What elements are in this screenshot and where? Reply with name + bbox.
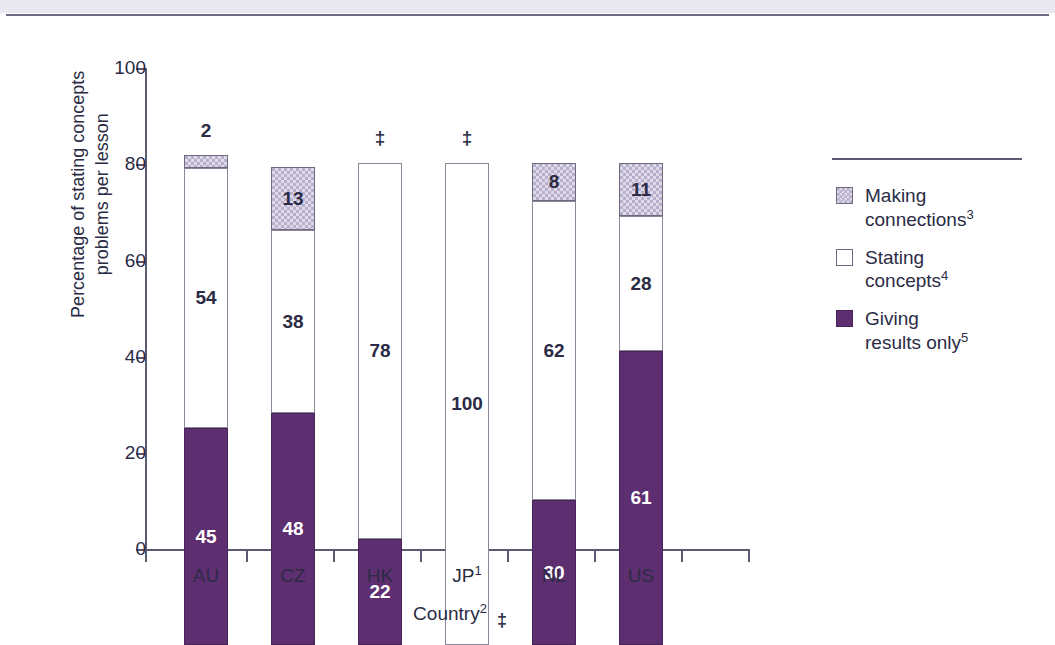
bar-segment-AU-stating[interactable]: 54 bbox=[184, 168, 228, 428]
bar-value-AU-stating: 54 bbox=[195, 287, 216, 309]
x-axis-label-HK: HK bbox=[335, 565, 425, 587]
bar-segment-AU-giving[interactable]: 45 bbox=[184, 428, 228, 645]
x-tick-mark-6 bbox=[681, 551, 683, 562]
bar-group-HK[interactable]: ‡ 22 78 bbox=[358, 95, 402, 645]
x-tick-mark-3 bbox=[420, 551, 422, 562]
figure-root: 100 80 60 40 20 0 Percentage of stating … bbox=[0, 0, 1055, 645]
x-axis-label-NL: NL bbox=[509, 565, 599, 587]
x-axis-label-CZ: CZ bbox=[248, 565, 338, 587]
bar-value-NL-stating: 62 bbox=[543, 340, 564, 362]
bar-segment-HK-stating[interactable]: 78 bbox=[358, 163, 402, 539]
bar-segment-US-stating[interactable]: 28 bbox=[619, 216, 663, 351]
bar-value-CZ-stating: 38 bbox=[282, 311, 303, 333]
bar-value-NL-making: 8 bbox=[549, 171, 560, 193]
legend-label-making-connections-line2: connections bbox=[865, 209, 966, 230]
legend-label-giving-results-only-line1: Giving bbox=[865, 308, 919, 329]
bar-top-note-HK: ‡ bbox=[358, 127, 402, 149]
x-axis-label-AU-text: AU bbox=[193, 565, 219, 586]
bar-group-CZ[interactable]: 48 38 13 bbox=[271, 95, 315, 645]
bar-value-US-giving: 61 bbox=[630, 487, 651, 509]
x-axis-label-US-text: US bbox=[628, 565, 654, 586]
legend-label-giving-results-only-sup: 5 bbox=[961, 329, 968, 344]
y-axis-line bbox=[145, 68, 147, 550]
bar-group-JP[interactable]: ‡ 100 ‡ bbox=[445, 95, 489, 645]
x-axis-label-AU: AU bbox=[161, 565, 251, 587]
x-axis-title: Country2 bbox=[340, 603, 560, 625]
legend-item-stating-concepts[interactable]: Statingconcepts4 bbox=[836, 246, 1036, 294]
bar-top-note-AU: 2 bbox=[184, 120, 228, 142]
x-axis-label-NL-text: NL bbox=[542, 565, 566, 586]
plot-area: 100 80 60 40 20 0 Percentage of stating … bbox=[0, 0, 800, 645]
x-tick-mark-0 bbox=[145, 551, 147, 562]
bar-segment-CZ-making[interactable]: 13 bbox=[271, 167, 315, 230]
x-tick-mark-5 bbox=[594, 551, 596, 562]
legend-label-stating-concepts: Statingconcepts4 bbox=[865, 246, 948, 294]
legend-swatch-stating-concepts-icon bbox=[836, 249, 853, 266]
legend-swatch-making-connections-icon bbox=[836, 187, 853, 204]
bar-value-JP-stating: 100 bbox=[451, 393, 483, 415]
x-axis-label-US: US bbox=[596, 565, 686, 587]
bar-group-AU[interactable]: 2 45 54 bbox=[184, 95, 228, 645]
x-tick-mark-4 bbox=[507, 551, 509, 562]
legend-item-giving-results-only[interactable]: Givingresults only5 bbox=[836, 307, 1036, 355]
x-axis-label-JP-text: JP bbox=[452, 565, 474, 586]
bar-value-AU-giving: 45 bbox=[195, 526, 216, 548]
x-axis-title-text: Country bbox=[413, 603, 480, 624]
bar-segment-CZ-giving[interactable]: 48 bbox=[271, 413, 315, 645]
x-axis-label-JP: JP1 bbox=[422, 565, 512, 587]
bar-segment-US-making[interactable]: 11 bbox=[619, 163, 663, 216]
bar-value-US-making: 11 bbox=[631, 179, 651, 201]
bar-segment-AU-making[interactable] bbox=[184, 155, 228, 168]
legend-label-giving-results-only: Givingresults only5 bbox=[865, 307, 968, 355]
x-tick-mark-2 bbox=[333, 551, 335, 562]
bar-segment-HK-giving[interactable]: 22 bbox=[358, 539, 402, 645]
legend-label-stating-concepts-line1: Stating bbox=[865, 247, 924, 268]
y-tick-label-20: 20 bbox=[106, 442, 146, 464]
bar-segment-CZ-stating[interactable]: 38 bbox=[271, 230, 315, 413]
bar-segment-NL-stating[interactable]: 62 bbox=[532, 201, 576, 500]
x-axis-label-CZ-text: CZ bbox=[280, 565, 305, 586]
legend-swatch-giving-results-only-icon bbox=[836, 310, 853, 327]
bar-segment-NL-making[interactable]: 8 bbox=[532, 163, 576, 201]
legend-label-making-connections-sup: 3 bbox=[966, 206, 973, 221]
legend-label-making-connections-line1: Making bbox=[865, 185, 926, 206]
bar-value-CZ-making: 13 bbox=[282, 188, 303, 210]
legend-divider-rule bbox=[832, 158, 1022, 160]
legend-label-giving-results-only-line2: results only bbox=[865, 332, 961, 353]
y-axis-title: Percentage of stating concepts problems … bbox=[66, 44, 115, 344]
legend-label-stating-concepts-line2: concepts bbox=[865, 270, 941, 291]
x-axis-title-sup: 2 bbox=[480, 601, 487, 616]
y-tick-label-0: 0 bbox=[106, 538, 146, 560]
bar-value-HK-stating: 78 bbox=[369, 340, 390, 362]
legend-items: Makingconnections3 Statingconcepts4 Givi… bbox=[836, 184, 1036, 369]
bar-value-US-stating: 28 bbox=[630, 273, 651, 295]
bar-segment-US-giving[interactable]: 61 bbox=[619, 351, 663, 645]
bar-value-CZ-giving: 48 bbox=[282, 518, 303, 540]
legend-item-making-connections[interactable]: Makingconnections3 bbox=[836, 184, 1036, 232]
legend-label-stating-concepts-sup: 4 bbox=[941, 268, 948, 283]
x-axis-label-HK-text: HK bbox=[367, 565, 393, 586]
bar-group-US[interactable]: 61 28 11 bbox=[619, 95, 663, 645]
x-tick-mark-7 bbox=[748, 551, 750, 562]
bar-top-note-JP: ‡ bbox=[445, 127, 489, 149]
legend-label-making-connections: Makingconnections3 bbox=[865, 184, 974, 232]
x-tick-mark-1 bbox=[246, 551, 248, 562]
y-tick-label-40: 40 bbox=[106, 346, 146, 368]
x-axis-label-JP-sup: 1 bbox=[474, 563, 481, 578]
bar-group-NL[interactable]: 30 62 8 bbox=[532, 95, 576, 645]
